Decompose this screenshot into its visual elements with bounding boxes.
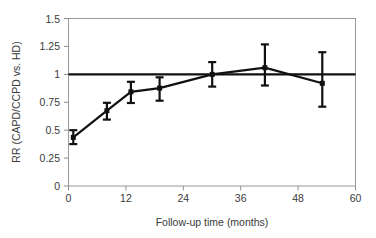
y-tick-label: 0.75 <box>40 96 61 108</box>
y-axis-title: RR (CAPD/CCPD vs. HD) <box>10 41 22 162</box>
plot-frame <box>69 19 356 187</box>
x-axis-tick-labels: 0 12 24 36 48 60 <box>66 192 362 204</box>
x-tick-label: 60 <box>350 192 362 204</box>
x-tick-label: 24 <box>177 192 189 204</box>
error-bar-group <box>69 44 326 144</box>
x-axis-ticks <box>69 186 356 191</box>
data-point-2 <box>103 103 111 120</box>
x-axis-title: Follow-up time (months) <box>156 216 269 228</box>
x-tick-label: 12 <box>120 192 132 204</box>
data-point-7 <box>318 52 326 106</box>
y-tick-label: 0.25 <box>40 152 61 164</box>
y-axis-ticks <box>64 19 69 187</box>
x-tick-label: 48 <box>292 192 304 204</box>
y-tick-label: 1.25 <box>40 40 61 52</box>
data-point-6 <box>261 44 269 85</box>
line-chart-plot: 1.5 1.25 1 0.75 0.5 0.25 0 0 12 24 36 48… <box>0 0 376 238</box>
y-tick-label: 1.5 <box>45 13 60 25</box>
y-tick-label: 0.5 <box>45 124 60 136</box>
y-axis-tick-labels: 1.5 1.25 1 0.75 0.5 0.25 0 <box>40 13 61 193</box>
data-point-1 <box>69 130 77 144</box>
x-tick-label: 0 <box>66 192 72 204</box>
x-tick-label: 36 <box>235 192 247 204</box>
y-tick-label: 0 <box>54 180 60 192</box>
y-tick-label: 1 <box>54 68 60 80</box>
chart-figure: 1.5 1.25 1 0.75 0.5 0.25 0 0 12 24 36 48… <box>0 0 376 238</box>
